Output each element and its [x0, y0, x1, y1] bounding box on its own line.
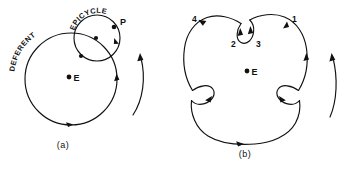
arrowhead-position-4	[198, 20, 206, 26]
rotation-arc-a	[133, 58, 143, 115]
position-label-2: 2	[231, 39, 236, 49]
deferent-circle	[25, 33, 117, 125]
epicycle-label: EPICYCLE	[68, 6, 108, 32]
arc-bottom	[191, 101, 300, 145]
arrowhead-top-loop-right	[248, 26, 254, 34]
deferent-arrowhead-bottom	[66, 122, 74, 127]
arrowhead-lower-left-loop	[205, 96, 212, 102]
epicycle-arrowhead	[114, 38, 119, 44]
position-label-4: 4	[192, 14, 197, 24]
rotation-arc-b	[330, 58, 336, 117]
epicycle-center-dot	[94, 36, 98, 40]
arrowhead-lower-right-loop	[279, 96, 286, 102]
arrowhead-bottom-arc	[236, 141, 244, 146]
position-label-1: 1	[292, 14, 297, 24]
position-label-3: 3	[256, 39, 261, 49]
epicycle-lower-dot	[79, 54, 83, 58]
planet-label: P	[120, 17, 126, 27]
rotation-arrowhead-a	[137, 53, 143, 61]
arc-upper-right	[250, 15, 307, 91]
caption-a: (a)	[57, 140, 70, 150]
panel-a: DEFERENT EPICYCLE P E (a)	[7, 6, 143, 150]
figure-container: DEFERENT EPICYCLE P E (a)	[0, 0, 351, 174]
deferent-arrowhead-right	[114, 74, 119, 82]
rotation-arrowhead-b	[329, 53, 335, 61]
earth-point-dot-b	[245, 69, 250, 74]
planet-point-dot	[112, 25, 117, 30]
earth-point-dot-a	[67, 75, 72, 80]
caption-b: (b)	[239, 149, 252, 159]
earth-label-a: E	[74, 73, 80, 83]
diagram-canvas: DEFERENT EPICYCLE P E (a)	[0, 0, 351, 174]
arrowhead-position-1	[283, 22, 289, 29]
earth-label-b: E	[252, 67, 258, 77]
deferent-label: DEFERENT	[7, 30, 37, 72]
arrowhead-right-arc	[303, 53, 309, 61]
arc-upper-left	[184, 16, 241, 91]
panel-b: E 4 1 2 3 (b)	[184, 14, 336, 159]
